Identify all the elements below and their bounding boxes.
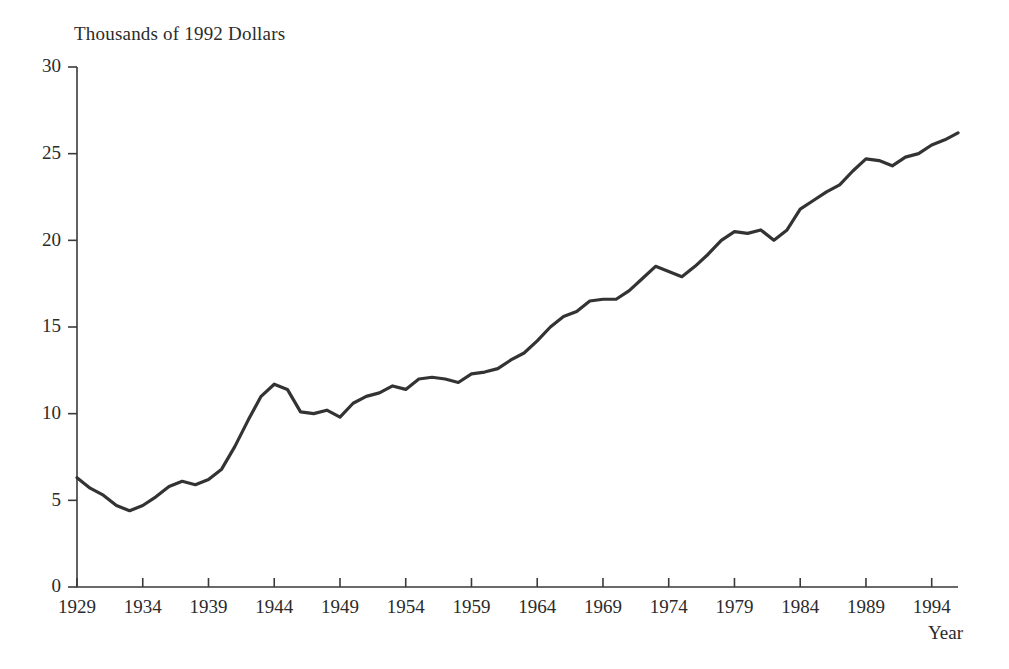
y-axis-tick-group: 051015202530 (42, 55, 77, 596)
x-axis-tick-group: 1929193419391944194919541959196419691974… (58, 578, 951, 617)
x-axis-tick-label: 1994 (913, 596, 952, 617)
y-axis-tick-label: 15 (42, 315, 61, 336)
x-axis-tick-label: 1964 (518, 596, 557, 617)
x-axis-label: Year (928, 622, 963, 644)
x-axis-tick-label: 1949 (321, 596, 359, 617)
x-axis-tick-label: 1929 (58, 596, 96, 617)
x-axis-tick-label: 1969 (584, 596, 622, 617)
x-axis-tick-label: 1944 (255, 596, 294, 617)
x-axis-tick-label: 1984 (781, 596, 820, 617)
y-axis-tick-label: 30 (42, 55, 61, 76)
y-axis-tick-label: 25 (42, 142, 61, 163)
y-axis-tick-label: 5 (52, 489, 62, 510)
x-axis-tick-label: 1934 (124, 596, 163, 617)
line-chart-plot-area: 051015202530 192919341939194419491954195… (0, 0, 1009, 669)
x-axis-tick-label: 1979 (715, 596, 753, 617)
x-axis-tick-label: 1959 (452, 596, 490, 617)
x-axis-tick-label: 1939 (189, 596, 227, 617)
y-axis-tick-label: 0 (52, 575, 62, 596)
y-axis-tick-label: 10 (42, 402, 61, 423)
axis-frame (77, 67, 958, 587)
data-series-line (77, 133, 958, 511)
chart-figure: Thousands of 1992 Dollars 051015202530 1… (0, 0, 1009, 669)
y-axis-tick-label: 20 (42, 229, 61, 250)
x-axis-tick-label: 1989 (847, 596, 885, 617)
x-axis-tick-label: 1954 (387, 596, 426, 617)
x-axis-tick-label: 1974 (650, 596, 689, 617)
